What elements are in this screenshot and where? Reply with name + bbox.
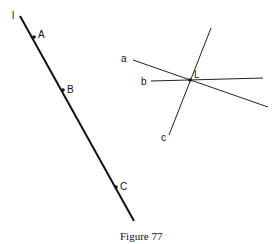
- point-b-label: B: [67, 84, 74, 95]
- point-c-label: C: [120, 181, 127, 192]
- intersection-label: L: [194, 69, 200, 80]
- point-a-dot: [32, 35, 36, 39]
- line-b: [151, 78, 263, 81]
- point-c-dot: [114, 185, 118, 189]
- line-l-label: l: [12, 10, 14, 21]
- figure-caption: Figure 77: [120, 230, 163, 242]
- line-a: [133, 60, 268, 107]
- point-a-label: A: [38, 29, 45, 40]
- intersection-point-l: [188, 78, 192, 82]
- line-l: [20, 16, 134, 221]
- line-b-label: b: [141, 76, 147, 87]
- line-c-label: c: [161, 132, 166, 143]
- line-a-label: a: [121, 53, 127, 64]
- figure-canvas: l A B C a b c L Figure 77: [0, 0, 278, 244]
- point-b-dot: [61, 88, 65, 92]
